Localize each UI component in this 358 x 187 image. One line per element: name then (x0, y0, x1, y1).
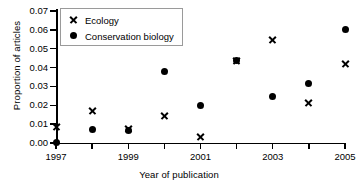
y-tick-label: 0.00 (6, 138, 48, 148)
data-point-circle (233, 57, 240, 64)
data-point-circle (125, 127, 132, 134)
x-tick-label: 2005 (325, 151, 358, 162)
y-tick-label: 0.06 (6, 25, 48, 35)
y-tick-label: 0.03 (6, 81, 48, 91)
data-point-cross (268, 35, 277, 44)
data-point-cross (304, 98, 313, 107)
x-tick (272, 144, 273, 149)
data-point-circle (89, 126, 96, 133)
data-point-cross (52, 122, 61, 131)
x-tick-label: 1999 (108, 151, 148, 162)
data-point-circle (342, 26, 349, 33)
x-tick (308, 144, 309, 149)
y-tick-label: 0.02 (6, 100, 48, 110)
x-tick (164, 144, 165, 149)
data-point-circle (305, 80, 312, 87)
chart-legend: Ecology Conservation biology (60, 8, 183, 46)
data-point-circle (269, 93, 276, 100)
x-tick (344, 144, 345, 149)
data-point-cross (160, 111, 169, 120)
data-point-cross (88, 106, 97, 115)
x-tick (91, 144, 92, 149)
x-tick-label: 2003 (253, 151, 293, 162)
scatter-chart-figure: Proportion of articles Year of publicati… (0, 0, 358, 187)
x-tick-label: 2001 (181, 151, 221, 162)
x-tick (128, 144, 129, 149)
legend-label-conservation-biology: Conservation biology (85, 31, 174, 42)
data-point-circle (161, 68, 168, 75)
legend-label-ecology: Ecology (85, 15, 119, 26)
y-tick-label: 0.05 (6, 44, 48, 54)
data-point-circle (197, 102, 204, 109)
x-axis-label: Year of publication (0, 169, 358, 180)
x-tick-label: 1997 (36, 151, 76, 162)
y-tick-label: 0.01 (6, 119, 48, 129)
x-tick (236, 144, 237, 149)
y-tick-label: 0.04 (6, 63, 48, 73)
data-point-circle (53, 139, 60, 146)
data-point-cross (341, 59, 350, 68)
data-point-cross (196, 132, 205, 141)
x-tick (200, 144, 201, 149)
cross-marker-icon (68, 14, 79, 25)
circle-marker-icon (68, 30, 79, 41)
y-tick-label: 0.07 (6, 6, 48, 16)
